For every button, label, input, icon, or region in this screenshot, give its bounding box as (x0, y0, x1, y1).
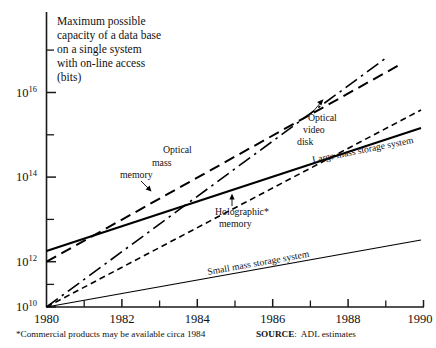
footnote-block: *Commercial products may be available ci… (16, 329, 356, 339)
y-axis-tick-labels: 1016 1014 1012 1010 (16, 84, 38, 314)
annotation-optical-video-disk: Optical video disk (297, 99, 337, 147)
title-line-4: with on-line access (57, 57, 146, 69)
annotation-holographic-memory: Holographic* memory (215, 194, 269, 230)
chart-title-block: Maximum possible capacity of a data base… (57, 15, 161, 84)
large-mass-storage-label: Large mass storage system (311, 134, 415, 165)
x-tick-label-1984: 1984 (185, 312, 211, 326)
holographic-memory-line-2: memory (219, 218, 252, 229)
title-line-2: capacity of a data base (57, 29, 161, 42)
title-line-1: Maximum possible (57, 15, 146, 28)
x-tick-label-1982: 1982 (109, 312, 134, 326)
optical-video-disk-line-1: Optical (308, 112, 337, 123)
x-axis-ticks (84, 299, 386, 307)
annotation-large-mass-storage: Large mass storage system (311, 134, 415, 165)
title-line-5: (bits) (57, 71, 81, 84)
optical-mass-memory-line-2: mass (152, 157, 172, 168)
title-line-3: on a single system (57, 43, 142, 56)
footnote-note: *Commercial products may be available ci… (16, 329, 206, 339)
annotation-optical-mass-memory: Optical mass memory (120, 144, 192, 192)
footnote-source: SOURCE:ADL estimates (256, 329, 356, 339)
x-tick-label-1988: 1988 (336, 312, 361, 326)
y-tick-label-1e14: 1014 (16, 168, 38, 184)
x-tick-label-1990: 1990 (408, 312, 433, 326)
optical-video-disk-arrowhead (317, 99, 323, 105)
capacity-line-chart: 1016 1014 1012 1010 1980 1982 1984 1986 … (0, 0, 436, 348)
series-small-mass-storage (47, 240, 422, 307)
x-tick-label-1986: 1986 (260, 312, 285, 326)
x-axis-tick-labels: 1980 1982 1984 1986 1988 1990 (34, 312, 433, 326)
y-tick-label-1e16: 1016 (16, 84, 37, 100)
series-optical-mass-memory (47, 64, 402, 262)
y-axis-ticks (47, 50, 57, 307)
optical-mass-memory-line-3: memory (120, 169, 153, 180)
y-tick-label-1e12: 1012 (16, 253, 37, 269)
optical-video-disk-line-3: disk (297, 136, 313, 147)
chart-figure: 1016 1014 1012 1010 1980 1982 1984 1986 … (0, 0, 436, 348)
holographic-memory-line-1: Holographic* (215, 206, 269, 217)
optical-mass-memory-line-1: Optical (163, 144, 192, 155)
holographic-memory-arrowhead (229, 194, 234, 200)
optical-video-disk-line-2: video (303, 124, 325, 135)
x-tick-label-1980: 1980 (34, 312, 59, 326)
